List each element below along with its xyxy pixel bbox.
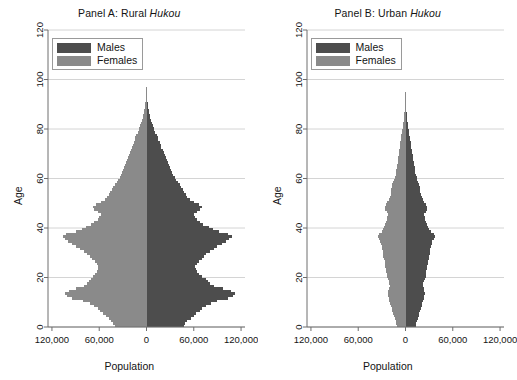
bar-male — [147, 201, 194, 203]
bar-female — [113, 322, 146, 324]
bar-female — [386, 218, 405, 220]
bar-male — [405, 250, 429, 252]
bar-male — [405, 287, 423, 289]
bar-female — [65, 292, 146, 294]
bar-female — [139, 127, 146, 129]
x-tick-label: 0 — [144, 334, 149, 345]
bar-female — [76, 230, 147, 232]
bar-male — [405, 188, 420, 190]
bar-male — [147, 260, 199, 262]
bar-female — [377, 235, 405, 237]
panel-a-x-axis-label: Population — [0, 360, 259, 372]
bar-male — [405, 131, 409, 133]
y-tick-label: 0 — [292, 324, 303, 329]
bar-male — [405, 315, 418, 317]
bar-male — [405, 169, 414, 171]
bar-female — [139, 129, 147, 131]
bar-male — [405, 265, 427, 267]
bar-female — [401, 136, 405, 138]
bar-male — [147, 146, 162, 148]
bar-male — [147, 169, 171, 171]
bar-male — [405, 300, 423, 302]
bar-male — [405, 216, 424, 218]
bar-male — [405, 218, 425, 220]
bar-male — [405, 282, 423, 284]
bar-female — [382, 250, 405, 252]
panel-b-legend: Males Females — [311, 38, 402, 70]
bar-male — [147, 97, 148, 99]
bar-female — [387, 201, 405, 203]
bar-female — [94, 305, 147, 307]
bar-female — [69, 290, 146, 292]
bar-female — [378, 238, 405, 240]
bar-male — [147, 154, 165, 156]
bar-female — [381, 243, 405, 245]
bar-male — [147, 216, 196, 218]
bar-female — [95, 273, 146, 275]
bar-female — [105, 198, 147, 200]
bar-male — [147, 290, 231, 292]
bar-male — [147, 191, 185, 193]
x-tick-label: 120,000 — [293, 334, 327, 345]
bar-male — [147, 186, 182, 188]
bar-male — [405, 270, 426, 272]
bar-male — [405, 208, 426, 210]
bar-female — [394, 317, 405, 319]
bar-female — [404, 109, 405, 111]
bar-male — [147, 129, 155, 131]
bar-female — [393, 181, 405, 183]
x-tick-label: 60,000 — [85, 334, 114, 345]
bar-male — [147, 107, 149, 109]
bar-male — [405, 253, 429, 255]
bar-male — [405, 213, 424, 215]
bar-female — [403, 117, 405, 119]
bar-male — [405, 273, 425, 275]
bar-male — [147, 287, 223, 289]
bar-female — [98, 265, 146, 267]
y-tick-label: 60 — [34, 173, 45, 184]
bar-female — [141, 122, 147, 124]
bar-female — [383, 258, 405, 260]
x-tick-label: 60,000 — [343, 334, 372, 345]
bar-female — [90, 302, 147, 304]
bar-female — [146, 94, 147, 96]
bar-male — [405, 221, 425, 223]
bar-female — [120, 176, 147, 178]
bar-female — [398, 151, 405, 153]
bar-male — [405, 235, 434, 237]
bar-female — [390, 191, 405, 193]
bar-male — [147, 317, 191, 319]
bar-male — [405, 159, 413, 161]
y-tick-label: 0 — [34, 324, 45, 329]
bar-male — [147, 233, 229, 235]
bar-female — [389, 285, 405, 287]
bar-male — [147, 149, 164, 151]
bar-female — [101, 213, 147, 215]
bar-male — [405, 243, 431, 245]
bar-female — [135, 139, 147, 141]
bar-female — [389, 196, 405, 198]
bar-female — [110, 191, 146, 193]
bar-male — [405, 156, 412, 158]
bar-female — [403, 122, 405, 124]
bar-male — [405, 117, 407, 119]
bar-male — [405, 297, 424, 299]
bar-male — [147, 114, 150, 116]
bar-male — [405, 176, 416, 178]
bar-female — [98, 268, 147, 270]
bar-male — [147, 176, 175, 178]
bar-female — [389, 282, 405, 284]
x-tick-label: 120,000 — [482, 334, 516, 345]
bar-female — [146, 97, 147, 99]
bar-female — [72, 243, 147, 245]
bar-female — [387, 278, 405, 280]
bar-female — [66, 233, 146, 235]
bar-male — [147, 263, 197, 265]
bar-male — [147, 248, 215, 250]
bar-male — [405, 179, 417, 181]
bar-female — [109, 193, 147, 195]
bar-male — [147, 193, 186, 195]
bar-male — [147, 213, 194, 215]
bar-female — [400, 139, 405, 141]
bar-male — [147, 179, 177, 181]
